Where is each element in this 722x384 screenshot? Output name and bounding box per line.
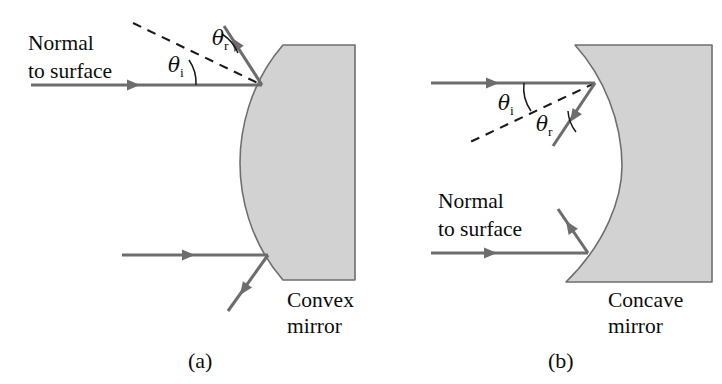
panel-b-mirror-label-line1: Concave (608, 288, 683, 312)
incident-ray-1-arrowhead (127, 79, 140, 90)
theta-r-subscript: r (224, 38, 229, 53)
panel-a: θiθrNormalto surfaceConvexmirror(a) (28, 23, 355, 373)
panel-a-mirror-label-line2: mirror (287, 314, 342, 338)
incident-ray-1-arrowhead (486, 77, 499, 88)
panel-b-normal-label-line1: Normal (438, 189, 504, 213)
reflected-ray-1 (224, 26, 262, 85)
panel-a-theta-i-label: θi (168, 53, 184, 80)
panel-a-normal-label-line1: Normal (28, 31, 94, 55)
panel-a-mirror-label-line1: Convex (287, 288, 354, 312)
panels-group: θiθrNormalto surfaceConvexmirror(a)θiθrN… (28, 23, 712, 373)
panel-b-theta-i-arc (524, 83, 531, 111)
panel-b-mirror-label-line2: mirror (608, 314, 663, 338)
theta-r-subscript: r (548, 124, 553, 139)
incident-ray-2-arrowhead (484, 247, 497, 258)
panel-b-theta-r-label: θr (536, 112, 553, 139)
panel-a-normal-label-line2: to surface (28, 59, 112, 83)
panel-a-theta-i-arc (189, 60, 196, 85)
panel-b-caption: (b) (548, 348, 574, 373)
diagram-canvas: θiθrNormalto surfaceConvexmirror(a)θiθrN… (0, 0, 722, 384)
physics-figure-mirror-reflection: θiθrNormalto surfaceConvexmirror(a)θiθrN… (0, 0, 722, 384)
theta-r-symbol: θ (536, 112, 548, 136)
theta-r-symbol: θ (212, 26, 224, 50)
concave-mirror-shape (566, 45, 712, 282)
theta-i-symbol: θ (168, 53, 180, 77)
theta-i-symbol: θ (498, 91, 510, 115)
panel-b-normal-label-line2: to surface (438, 217, 522, 241)
panel-b: θiθrNormalto surfaceConcavemirror(b) (431, 45, 712, 373)
theta-i-subscript: i (180, 65, 184, 80)
reflected-ray-2 (228, 255, 268, 311)
panel-b-theta-i-label: θi (498, 91, 514, 118)
theta-i-subscript: i (510, 103, 514, 118)
panel-a-caption: (a) (188, 348, 212, 373)
incident-ray-2-arrowhead (182, 249, 195, 260)
